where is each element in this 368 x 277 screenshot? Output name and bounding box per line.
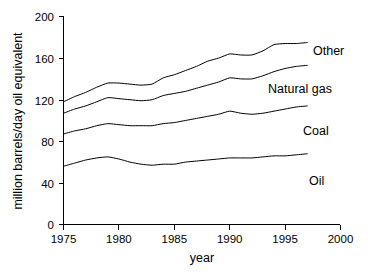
x-tick-label-1980: 1980 — [106, 233, 132, 245]
y-tick-label-200: 200 — [35, 11, 54, 23]
data-curves — [64, 43, 308, 167]
y-axis-ticks — [59, 17, 64, 225]
x-tick-label-1975: 1975 — [51, 233, 77, 245]
series-label-coal: Coal — [303, 124, 329, 138]
x-tick-label-2000: 2000 — [328, 233, 354, 245]
curve-oil — [64, 154, 308, 166]
x-tick-label-1995: 1995 — [272, 233, 298, 245]
series-label-other: Other — [313, 44, 344, 58]
series-label-natural-gas: Natural gas — [268, 82, 332, 96]
curve-coal — [64, 106, 308, 134]
y-axis-tick-labels: 200 160 120 80 40 0 — [35, 11, 54, 231]
y-tick-label-80: 80 — [41, 136, 54, 148]
y-tick-label-120: 120 — [35, 95, 54, 107]
y-axis-title: million barrels/day oil equivalent — [11, 32, 25, 210]
x-axis-ticks — [64, 225, 341, 230]
x-axis-tick-labels: 1975 1980 1985 1990 1995 2000 — [51, 233, 354, 245]
energy-consumption-chart: 200 160 120 80 40 0 1975 1980 1985 1990 … — [0, 0, 368, 277]
chart-plot-area: 200 160 120 80 40 0 1975 1980 1985 1990 … — [0, 0, 368, 277]
series-label-oil: Oil — [309, 174, 324, 188]
y-tick-label-160: 160 — [35, 53, 54, 65]
x-tick-label-1985: 1985 — [162, 233, 188, 245]
x-axis-title: year — [190, 251, 214, 265]
y-tick-label-40: 40 — [41, 178, 54, 190]
x-tick-label-1990: 1990 — [217, 233, 243, 245]
y-tick-label-0: 0 — [48, 219, 54, 231]
